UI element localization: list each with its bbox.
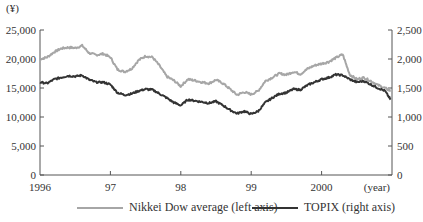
x-tick-label: 99: [246, 181, 258, 193]
data-lines: [40, 45, 391, 115]
x-axis-unit: (year): [364, 181, 391, 194]
right-tick-label: 1,000: [397, 111, 422, 123]
legend-swatch-nikkei: [77, 207, 123, 209]
right-tick-label: 1,500: [397, 82, 422, 94]
x-tick-label: 98: [175, 181, 187, 193]
left-tick-label: 15,000: [6, 82, 37, 94]
right-tick-label: 2,500: [397, 24, 422, 36]
x-tick-label: 2000: [311, 181, 334, 193]
x-tick-label: 1996: [29, 181, 52, 193]
left-tick-label: 25,000: [6, 24, 37, 36]
legend-swatch-topix: [252, 207, 298, 209]
legend: Nikkei Dow average (left axis) TOPIX (ri…: [0, 200, 423, 220]
legend-item-topix: TOPIX (right axis): [252, 200, 395, 215]
nikkei-line: [40, 45, 391, 95]
right-tick-label: 2,000: [397, 53, 422, 65]
right-tick-label: 500: [397, 140, 414, 152]
right-tick-label: 0: [397, 169, 403, 181]
left-tick-label: 10,000: [6, 111, 37, 123]
legend-item-nikkei: Nikkei Dow average (left axis): [77, 200, 278, 215]
legend-label-topix: TOPIX (right axis): [304, 200, 395, 215]
left-tick-label: 20,000: [6, 53, 37, 65]
line-chart: 05,00010,00015,00020,00025,00005001,0001…: [0, 0, 423, 200]
x-tick-label: 97: [105, 181, 117, 193]
axes: 05,00010,00015,00020,00025,00005001,0001…: [6, 24, 423, 194]
left-tick-label: 0: [31, 169, 37, 181]
left-tick-label: 5,000: [11, 140, 36, 152]
